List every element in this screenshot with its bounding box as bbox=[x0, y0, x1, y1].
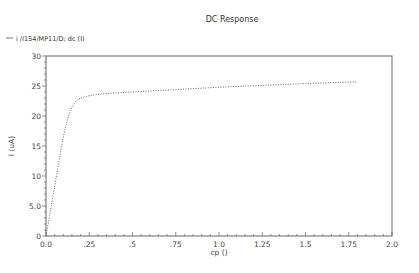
y-axis-label: I (uA) bbox=[7, 136, 16, 156]
data-series-line bbox=[46, 82, 357, 236]
y-axis: 05.01015202530 bbox=[29, 52, 46, 241]
y-tick-label: 15 bbox=[31, 142, 41, 151]
legend-label: i /I154/MP11/D; dc (I) bbox=[16, 35, 85, 43]
x-tick-label: 2.0 bbox=[386, 240, 398, 249]
plot-frame bbox=[46, 56, 392, 236]
y-tick-label: 25 bbox=[31, 82, 41, 91]
x-tick-label: 1.75 bbox=[340, 240, 357, 249]
x-tick-label: 0.0 bbox=[40, 240, 52, 249]
y-tick-label: 10 bbox=[31, 172, 41, 181]
chart: DC Response i /I154/MP11/D; dc (I) 05.01… bbox=[0, 0, 419, 273]
x-tick-label: 1.5 bbox=[300, 240, 312, 249]
y-tick-label: 30 bbox=[31, 52, 41, 61]
legend-item[interactable]: i /I154/MP11/D; dc (I) bbox=[6, 35, 85, 43]
x-tick-label: .75 bbox=[170, 240, 182, 249]
x-tick-label: 1.25 bbox=[254, 240, 271, 249]
x-tick-label: .25 bbox=[83, 240, 95, 249]
x-tick-label: .5 bbox=[129, 240, 136, 249]
x-axis-label: cp () bbox=[210, 248, 227, 257]
y-tick-label: 20 bbox=[31, 112, 41, 121]
chart-title: DC Response bbox=[206, 15, 259, 24]
x-axis: 0.0.25.5.751.01.251.51.752.0 bbox=[40, 232, 398, 249]
y-tick-label: 5.0 bbox=[29, 202, 41, 211]
